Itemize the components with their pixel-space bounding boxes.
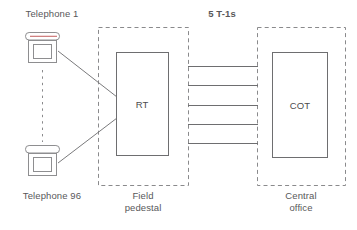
central-office-label: Central office [285, 190, 316, 213]
field-pedestal-label: Field pedestal [125, 190, 162, 213]
telephone-1-icon [26, 33, 60, 63]
telephone-96-label: Telephone 96 [23, 190, 81, 202]
subscriber-line-first [58, 51, 117, 97]
diagram-canvas: Telephone 1 Telephone 96 5 T-1s RT COT F… [0, 0, 357, 230]
cot-label: COT [290, 100, 310, 112]
telephone-1-label: Telephone 1 [26, 8, 79, 20]
t1-trunk-label: 5 T-1s [208, 8, 236, 20]
rt-label: RT [136, 99, 149, 111]
t1-trunk-lines [188, 67, 258, 144]
telephone-96-icon [26, 146, 60, 176]
subscriber-line-last [58, 118, 117, 163]
